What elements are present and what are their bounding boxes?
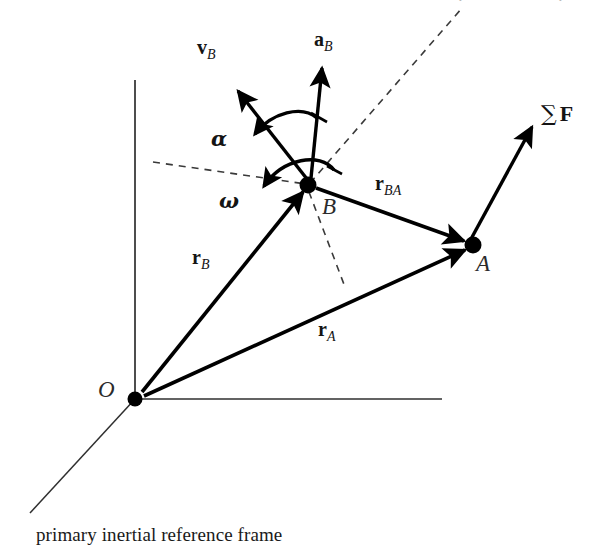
sigma-symbol: ∑ (541, 101, 557, 126)
angular-label-omega: ω (219, 190, 239, 211)
point-markers-group (128, 177, 482, 407)
axes-group (30, 80, 442, 513)
dashed-reference-left (153, 162, 306, 184)
vector-label-v-B-symbol: v (197, 36, 207, 58)
oblique-axis (30, 399, 135, 513)
vector-label-r-BA: rBA (375, 173, 401, 198)
cropped-text-fragment-left: · (458, 0, 462, 11)
vector-label-r-B-subscript: B (201, 257, 210, 272)
figure-root: O B A vB aB rB rA rBA ∑F α ω · · primary… (0, 0, 600, 556)
point-marker-B (300, 177, 317, 194)
point-marker-O (128, 392, 143, 407)
vector-label-r-A-subscript: A (327, 329, 336, 344)
diagram-canvas (0, 0, 600, 556)
omega-arc-tick (327, 166, 342, 174)
vector-label-r-A: rA (318, 319, 336, 344)
vector-label-r-B-symbol: r (192, 246, 201, 268)
vector-label-a-B-symbol: a (314, 28, 324, 50)
omega-arc (264, 160, 334, 186)
vector-label-r-BA-subscript: BA (384, 183, 402, 198)
angular-label-alpha: α (211, 128, 227, 149)
vector-label-v-B: vB (197, 37, 216, 62)
alpha-arc (255, 111, 317, 134)
force-symbol: F (560, 101, 573, 126)
vector-v-B (238, 91, 307, 179)
cropped-text-fragment-right: · (558, 0, 562, 11)
vector-label-r-A-symbol: r (318, 318, 327, 340)
force-vector-group (471, 127, 532, 239)
vector-label-a-B: aB (314, 29, 333, 54)
kinematic-vectors-group (238, 68, 322, 179)
point-label-B: B (322, 195, 336, 218)
vector-label-a-B-subscript: B (324, 39, 333, 54)
dashed-reference-upright (310, 8, 462, 183)
vector-label-r-B: rB (192, 247, 210, 272)
vector-sum-F (471, 127, 532, 239)
angular-arcs-group (255, 111, 342, 186)
figure-caption: primary inertial reference frame (36, 524, 282, 546)
point-label-O: O (98, 378, 115, 401)
vector-label-sum-F: ∑F (541, 103, 573, 125)
vector-label-r-BA-symbol: r (375, 172, 384, 194)
position-vectors-group (142, 188, 465, 396)
point-label-A: A (476, 252, 490, 275)
vector-label-v-B-subscript: B (207, 47, 216, 62)
